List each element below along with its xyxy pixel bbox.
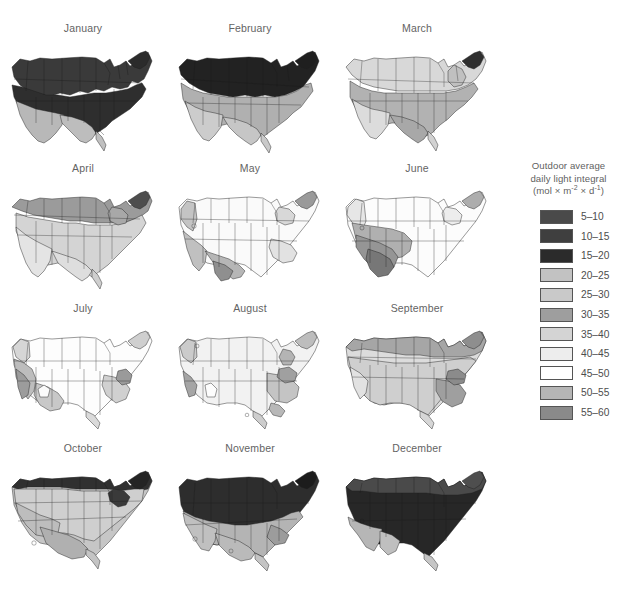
month-label-december: December [334,442,500,454]
legend-swatch-25-30 [540,288,573,302]
legend-label-15-20: 15–20 [581,250,609,261]
map-january[interactable] [0,39,166,161]
legend-label-35-40: 35–40 [581,329,609,340]
usa-choropleth-may [167,179,333,301]
map-june[interactable] [334,179,500,301]
month-label-august: August [167,302,333,314]
legend-swatch-35-40 [540,327,573,341]
month-label-may: May [167,162,333,174]
month-label-september: September [334,302,500,314]
legend-item-30-35[interactable]: 30–35 [540,305,638,325]
legend-label-40-45: 40–45 [581,348,609,359]
usa-choropleth-april [0,179,166,301]
legend-swatch-45-50 [540,366,573,380]
legend-swatch-15-20 [540,249,573,263]
usa-choropleth-july [0,319,166,441]
legend-label-55-60: 55–60 [581,407,609,418]
usa-choropleth-october [0,459,166,581]
legend-item-25-30[interactable]: 25–30 [540,285,638,305]
month-cell-june[interactable]: June [334,162,500,302]
usa-choropleth-january [0,39,166,161]
legend-label-10-15: 10–15 [581,231,609,242]
legend-units-prefix: (mol × m [533,185,571,196]
map-may[interactable] [167,179,333,301]
legend-title-line2: daily light integral [503,173,634,186]
map-april[interactable] [0,179,166,301]
legend-item-45-50[interactable]: 45–50 [540,364,638,384]
legend-item-40-45[interactable]: 40–45 [540,344,638,364]
legend-title: Outdoor average daily light integral (mo… [503,160,634,198]
legend-swatch-40-45 [540,347,573,361]
month-cell-august[interactable]: August [167,302,333,442]
month-label-november: November [167,442,333,454]
month-cell-november[interactable]: November [167,442,333,582]
legend-item-20-25[interactable]: 20–25 [540,266,638,286]
legend-units-mid: × d [578,185,595,196]
month-cell-march[interactable]: March [334,22,500,162]
legend-swatch-20-25 [540,268,573,282]
month-cell-september[interactable]: September [334,302,500,442]
legend-label-45-50: 45–50 [581,368,609,379]
month-cell-april[interactable]: April [0,162,166,302]
month-cell-january[interactable]: January [0,22,166,162]
legend-title-line1: Outdoor average [503,160,634,173]
legend-item-35-40[interactable]: 35–40 [540,324,638,344]
legend-label-25-30: 25–30 [581,289,609,300]
month-cell-february[interactable]: February [167,22,333,162]
legend-item-5-10[interactable]: 5–10 [540,207,638,227]
map-march[interactable] [334,39,500,161]
legend-item-list: 5–10 10–15 15–20 20–25 25–30 30–35 [540,207,638,423]
usa-choropleth-november [167,459,333,581]
legend-swatch-55-60 [540,406,573,420]
month-cell-july[interactable]: July [0,302,166,442]
legend-item-50-55[interactable]: 50–55 [540,383,638,403]
legend-label-50-55: 50–55 [581,387,609,398]
legend-item-10-15[interactable]: 10–15 [540,226,638,246]
usa-choropleth-august [167,319,333,441]
month-cell-may[interactable]: May [167,162,333,302]
usa-choropleth-june [334,179,500,301]
month-label-june: June [334,162,500,174]
map-august[interactable] [167,319,333,441]
legend-title-units: (mol × m-2 × d-1) [503,185,634,198]
map-november[interactable] [167,459,333,581]
usa-choropleth-march [334,39,500,161]
map-september[interactable] [334,319,500,441]
legend-swatch-50-55 [540,386,573,400]
month-cell-december[interactable]: December [334,442,500,582]
month-label-april: April [0,162,166,174]
map-december[interactable] [334,459,500,581]
legend-item-15-20[interactable]: 15–20 [540,246,638,266]
legend-units-suffix: ) [601,185,604,196]
month-map-grid: January [0,14,500,597]
map-october[interactable] [0,459,166,581]
usa-choropleth-september [334,319,500,441]
month-cell-october[interactable]: October [0,442,166,582]
legend-item-55-60[interactable]: 55–60 [540,403,638,423]
month-label-march: March [334,22,500,34]
legend-label-5-10: 5–10 [581,211,604,222]
map-july[interactable] [0,319,166,441]
legend-swatch-10-15 [540,229,573,243]
legend-label-30-35: 30–35 [581,309,609,320]
usa-choropleth-december [334,459,500,581]
legend-swatch-30-35 [540,308,573,322]
legend: Outdoor average daily light integral (mo… [503,160,638,422]
legend-swatch-5-10 [540,210,573,224]
map-february[interactable] [167,39,333,161]
month-label-february: February [167,22,333,34]
light-integral-map-figure: January [0,0,638,597]
usa-choropleth-february [167,39,333,161]
month-label-october: October [0,442,166,454]
month-label-january: January [0,22,166,34]
month-label-july: July [0,302,166,314]
legend-label-20-25: 20–25 [581,270,609,281]
